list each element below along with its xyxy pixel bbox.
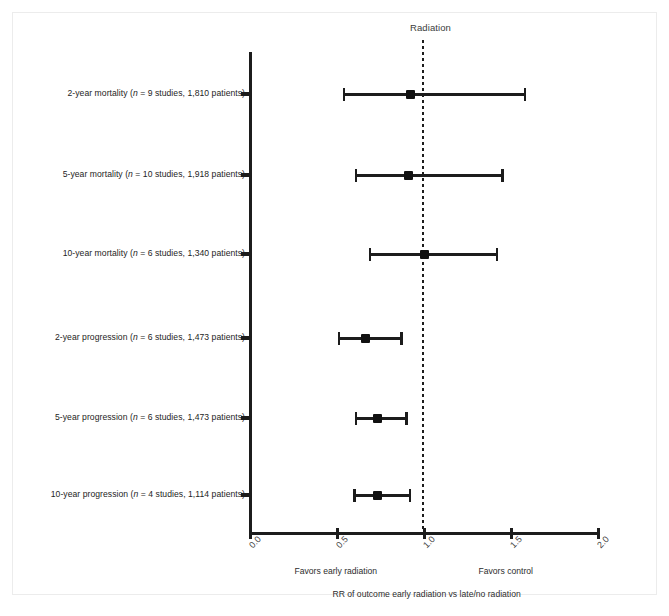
row-label-prefix: 5-year progression ( (55, 412, 133, 422)
forest-plot: Radiation 2-year mortality (n = 9 studie… (0, 0, 669, 616)
row-label: 2-year progression (n = 6 studies, 1,473… (55, 332, 245, 342)
ci-upper-cap (400, 332, 403, 345)
ci-upper-cap (524, 88, 527, 101)
y-axis-tick (241, 416, 250, 420)
point-estimate-marker (373, 491, 382, 500)
ci-lower-cap (353, 489, 356, 502)
point-estimate-marker (406, 90, 415, 99)
row-label: 10-year progression (n = 4 studies, 1,11… (51, 489, 245, 499)
y-axis-tick (241, 493, 250, 497)
point-estimate-marker (373, 414, 382, 423)
y-axis-tick (241, 252, 250, 256)
x-axis-title: RR of outcome early radiation vs late/no… (333, 589, 521, 599)
ci-lower-cap (355, 169, 358, 182)
ci-lower-cap (343, 88, 346, 101)
y-axis-tick (241, 92, 250, 96)
chart-title-text: Radiation (410, 22, 451, 33)
point-estimate-marker (420, 250, 429, 259)
chart-title: Radiation (0, 22, 669, 33)
row-label-suffix: = 9 studies, 1,810 patients) (138, 88, 245, 98)
row-label: 2-year mortality (n = 9 studies, 1,810 p… (68, 88, 246, 98)
point-estimate-marker (404, 171, 413, 180)
confidence-interval-line (355, 174, 501, 177)
row-label-prefix: 5-year mortality ( (63, 169, 128, 179)
point-estimate-marker (361, 334, 370, 343)
row-label-prefix: 2-year progression ( (55, 332, 133, 342)
ci-lower-cap (355, 412, 358, 425)
y-axis-tick (241, 336, 250, 340)
favors-early-radiation-label: Favors early radiation (295, 566, 378, 576)
row-label-prefix: 10-year progression ( (51, 489, 134, 499)
row-label: 5-year mortality (n = 10 studies, 1,918 … (63, 169, 245, 179)
ci-upper-cap (405, 412, 408, 425)
row-label-suffix: = 6 studies, 1,473 patients) (138, 332, 245, 342)
row-label-suffix: = 4 studies, 1,114 patients) (138, 489, 245, 499)
row-label-suffix: = 6 studies, 1,473 patients) (138, 412, 245, 422)
y-axis-tick (241, 173, 250, 177)
row-label: 5-year progression (n = 6 studies, 1,473… (55, 412, 245, 422)
favors-control-label: Favors control (479, 566, 533, 576)
reference-line-at-1 (422, 40, 424, 535)
figure-canvas: Radiation 2-year mortality (n = 9 studie… (0, 0, 669, 616)
ci-lower-cap (369, 248, 372, 261)
confidence-interval-line (369, 253, 496, 256)
confidence-interval-line (343, 93, 524, 96)
y-axis-spine (249, 52, 252, 535)
ci-lower-cap (338, 332, 341, 345)
row-label-prefix: 10-year mortality ( (63, 248, 133, 258)
row-label: 10-year mortality (n = 6 studies, 1,340 … (63, 248, 245, 258)
ci-upper-cap (496, 248, 499, 261)
ci-upper-cap (409, 489, 412, 502)
row-label-suffix: = 6 studies, 1,340 patients) (138, 248, 245, 258)
ci-upper-cap (501, 169, 504, 182)
row-label-suffix: = 10 studies, 1,918 patients) (133, 169, 245, 179)
row-label-prefix: 2-year mortality ( (68, 88, 133, 98)
